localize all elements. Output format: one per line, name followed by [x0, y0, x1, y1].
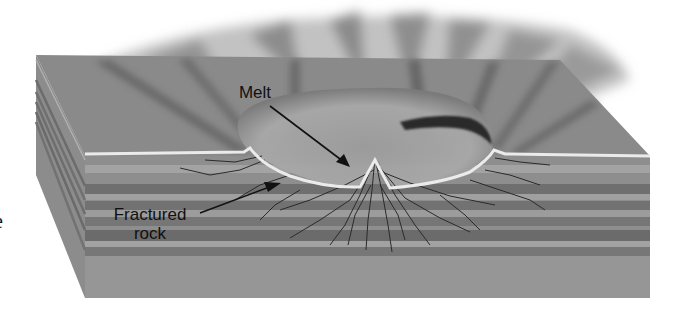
- fractured-rock-label: Fractured rock: [98, 205, 202, 243]
- impact-crater-diagram: [0, 0, 686, 321]
- cut-off-text: e: [0, 212, 14, 231]
- fractured-rock-label-line1: Fractured: [98, 205, 202, 224]
- fractured-rock-label-line2: rock: [98, 224, 202, 243]
- melt-label: Melt: [229, 83, 281, 102]
